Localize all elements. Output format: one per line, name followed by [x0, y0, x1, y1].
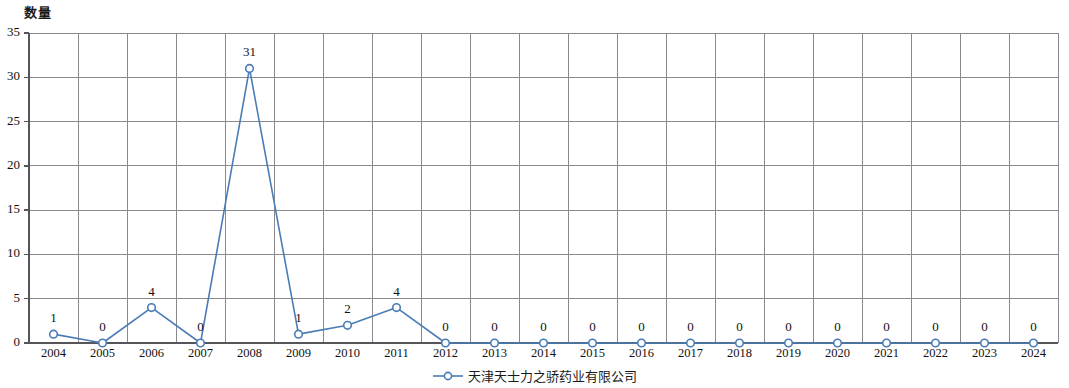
- x-tick-label: 2005: [78, 346, 127, 361]
- data-point-label: 0: [764, 319, 813, 335]
- x-tick-label: 2024: [1009, 346, 1058, 361]
- data-point-label: 0: [176, 319, 225, 335]
- data-point-label: 4: [127, 284, 176, 300]
- y-tick-label: 15: [0, 201, 20, 217]
- data-point-label: 0: [911, 319, 960, 335]
- x-tick-label: 2004: [29, 346, 78, 361]
- x-tick-label: 2022: [911, 346, 960, 361]
- data-point-label: 2: [323, 301, 372, 317]
- y-tick-label: 35: [0, 24, 20, 40]
- data-point-label: 31: [225, 44, 274, 60]
- legend-marker-icon: [433, 370, 463, 382]
- data-point-label: 4: [372, 284, 421, 300]
- x-tick-label: 2011: [372, 346, 421, 361]
- axis-lines: [24, 33, 1058, 343]
- x-tick-label: 2007: [176, 346, 225, 361]
- data-point-label: 0: [666, 319, 715, 335]
- series-markers: [50, 65, 1038, 347]
- data-point-label: 0: [78, 319, 127, 335]
- data-point-label: 0: [813, 319, 862, 335]
- series-line: [54, 68, 1034, 343]
- x-tick-label: 2009: [274, 346, 323, 361]
- y-tick-label: 10: [0, 245, 20, 261]
- legend-entry-label: 天津天士力之骄药业有限公司: [468, 366, 637, 385]
- data-point-label: 1: [274, 310, 323, 326]
- x-tick-label: 2006: [127, 346, 176, 361]
- x-tick-label: 2018: [715, 346, 764, 361]
- data-point-label: 0: [862, 319, 911, 335]
- x-tick-label: 2020: [813, 346, 862, 361]
- data-point-label: 0: [421, 319, 470, 335]
- x-tick-label: 2016: [617, 346, 666, 361]
- data-point-label: 1: [29, 310, 78, 326]
- y-tick-label: 5: [0, 290, 20, 306]
- x-tick-label: 2013: [470, 346, 519, 361]
- data-point-label: 0: [715, 319, 764, 335]
- data-point-label: 0: [519, 319, 568, 335]
- x-tick-label: 2012: [421, 346, 470, 361]
- y-tick-label: 20: [0, 157, 20, 173]
- data-point-label: 0: [1009, 319, 1058, 335]
- data-point-label: 0: [470, 319, 519, 335]
- x-tick-label: 2014: [519, 346, 568, 361]
- x-tick-label: 2021: [862, 346, 911, 361]
- grid-lines: [29, 33, 1058, 343]
- x-tick-label: 2008: [225, 346, 274, 361]
- x-tick-label: 2019: [764, 346, 813, 361]
- x-tick-label: 2010: [323, 346, 372, 361]
- data-point-label: 0: [568, 319, 617, 335]
- chart-legend: 天津天士力之骄药业有限公司: [0, 366, 1069, 385]
- x-tick-label: 2015: [568, 346, 617, 361]
- x-tick-label: 2023: [960, 346, 1009, 361]
- y-tick-label: 30: [0, 68, 20, 84]
- data-point-label: 0: [617, 319, 666, 335]
- line-chart: 数量 05101520253035 2004200520062007200820…: [0, 0, 1069, 388]
- x-tick-label: 2017: [666, 346, 715, 361]
- y-tick-label: 0: [0, 334, 20, 350]
- y-tick-label: 25: [0, 113, 20, 129]
- data-point-label: 0: [960, 319, 1009, 335]
